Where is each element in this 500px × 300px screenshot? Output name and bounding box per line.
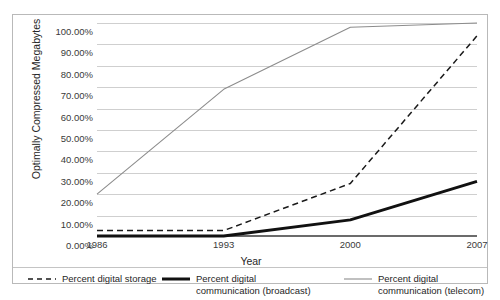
y-axis-tick-label: 80.00% xyxy=(61,68,93,79)
x-axis-tick-label: 1993 xyxy=(213,239,234,250)
chart-plot-region: Optimally Compressed Megabytes 0.00%10.0… xyxy=(13,15,489,243)
y-axis-tick-label: 100.00% xyxy=(55,26,93,37)
series-line xyxy=(97,181,477,236)
series-line xyxy=(97,23,477,194)
legend-entry[interactable]: Percent digital communication (telecom) xyxy=(343,273,489,296)
legend-label: Percent digital communication (broadcast… xyxy=(196,273,316,296)
x-axis-title: Year xyxy=(13,255,489,267)
plot-canvas xyxy=(97,23,477,237)
legend-entry[interactable]: Percent digital communication (broadcast… xyxy=(161,273,316,296)
y-axis-tick-label: 70.00% xyxy=(61,90,93,101)
y-axis-tick-label: 90.00% xyxy=(61,47,93,58)
x-axis-tick-label: 2007 xyxy=(466,239,487,250)
y-axis-tick-label: 20.00% xyxy=(61,197,93,208)
x-axis-tick-label: 2000 xyxy=(340,239,361,250)
legend-divider xyxy=(13,267,487,268)
chart-figure: Optimally Compressed Megabytes 0.00%10.0… xyxy=(12,14,488,284)
y-axis-tick-label: 30.00% xyxy=(61,175,93,186)
y-axis-tick-label: 10.00% xyxy=(61,218,93,229)
y-axis-tick-label: 40.00% xyxy=(61,154,93,165)
series-line xyxy=(97,36,477,231)
dashed-line-swatch xyxy=(27,273,57,284)
legend-label: Percent digital storage xyxy=(62,273,157,285)
legend-entry[interactable]: Percent digital storage xyxy=(27,273,157,285)
x-axis-tick-label: 1986 xyxy=(86,239,107,250)
series-lines xyxy=(97,23,477,237)
thin-solid-line-swatch xyxy=(343,273,373,284)
chart-legend: Percent digital storagePercent digital c… xyxy=(13,271,489,300)
legend-label: Percent digital communication (telecom) xyxy=(378,273,489,296)
y-axis-tick-labels: 0.00%10.00%20.00%30.00%40.00%50.00%60.00… xyxy=(41,23,93,237)
y-axis-tick-label: 50.00% xyxy=(61,133,93,144)
y-axis-tick-label: 60.00% xyxy=(61,111,93,122)
x-axis-tick-labels: 1986199320002007 xyxy=(97,239,477,253)
thick-solid-line-swatch xyxy=(161,273,191,284)
